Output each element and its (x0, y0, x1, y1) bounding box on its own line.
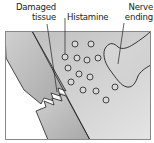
histamine-granule (88, 41, 94, 47)
histamine-granule (65, 65, 71, 71)
histamine-granule (74, 55, 80, 61)
histamine-granule (112, 84, 118, 90)
histamine-granule (93, 88, 99, 94)
histamine-granule (68, 79, 74, 85)
histamine-granule (87, 74, 93, 80)
histamine-granule (84, 57, 90, 63)
histamine-granule (80, 87, 86, 93)
histamine-granule (76, 71, 82, 77)
tissue-diagram (0, 0, 154, 143)
histamine-granule (62, 54, 68, 60)
histamine-granule (95, 55, 101, 61)
histamine-granule (103, 97, 109, 103)
tissue-layers (5, 31, 151, 140)
histamine-granule (72, 41, 78, 47)
